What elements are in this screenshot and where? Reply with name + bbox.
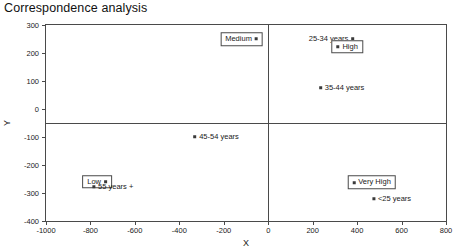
x-tick-label: 600: [395, 226, 408, 235]
point-marker-icon: [372, 197, 375, 200]
data-point: <25 years: [372, 195, 411, 203]
x-tick-mark: [268, 221, 269, 225]
x-tick-mark: [135, 221, 136, 225]
x-tick-mark: [224, 221, 225, 225]
x-tick-mark: [357, 221, 358, 225]
y-tick-mark: [42, 137, 46, 138]
plot-area: -1000-800-600-400-2000200400600800300200…: [45, 24, 447, 222]
x-tick-mark: [90, 221, 91, 225]
y-tick-label: -400: [24, 217, 39, 226]
x-tick-label: -400: [172, 226, 187, 235]
x-tick-label: -800: [83, 226, 98, 235]
y-tick-mark: [42, 193, 46, 194]
chart-title: Correspondence analysis: [4, 1, 147, 15]
data-point-label: 45-54 years: [199, 133, 239, 141]
x-tick-label: 0: [266, 226, 270, 235]
y-tick-label: 0: [35, 105, 39, 114]
y-tick-label: 100: [26, 77, 39, 86]
x-axis-title: X: [243, 238, 249, 248]
x-tick-mark: [179, 221, 180, 225]
y-tick-mark: [42, 165, 46, 166]
data-point-label: 55 years +: [98, 183, 133, 191]
x-tick-label: -600: [127, 226, 142, 235]
data-point-label: <25 years: [378, 195, 411, 203]
y-tick-label: -100: [24, 133, 39, 142]
y-tick-label: -200: [24, 161, 39, 170]
y-tick-label: 300: [26, 21, 39, 30]
point-marker-icon: [336, 45, 339, 48]
x-tick-label: -200: [216, 226, 231, 235]
data-point-label: Very High: [358, 179, 391, 187]
data-point: Medium: [220, 32, 263, 46]
point-marker-icon: [193, 136, 196, 139]
y-tick-label: 200: [26, 49, 39, 58]
data-point: Very High: [347, 176, 396, 190]
y-tick-mark: [42, 109, 46, 110]
point-marker-icon: [92, 185, 95, 188]
y-tick-mark: [42, 53, 46, 54]
data-point: 55 years +: [92, 183, 133, 191]
x-tick-label: 200: [306, 226, 319, 235]
point-marker-icon: [352, 181, 355, 184]
data-point-label: Medium: [225, 35, 252, 43]
origin-line-horizontal: [46, 123, 446, 124]
x-tick-mark: [46, 221, 47, 225]
x-tick-label: 800: [440, 226, 453, 235]
x-tick-mark: [402, 221, 403, 225]
point-marker-icon: [255, 38, 258, 41]
y-tick-mark: [42, 221, 46, 222]
y-tick-mark: [42, 25, 46, 26]
x-tick-mark: [313, 221, 314, 225]
point-marker-icon: [319, 87, 322, 90]
correspondence-analysis-chart: Correspondence analysis -1000-800-600-40…: [0, 0, 457, 249]
data-point-label: 35-44 years: [325, 84, 365, 92]
data-point: High: [331, 40, 362, 54]
y-tick-label: -300: [24, 189, 39, 198]
y-tick-mark: [42, 81, 46, 82]
data-point: 35-44 years: [319, 84, 365, 92]
data-point: 45-54 years: [193, 133, 239, 141]
x-tick-mark: [446, 221, 447, 225]
data-point-label: High: [342, 43, 357, 51]
x-tick-label: -1000: [36, 226, 55, 235]
y-axis-title: Y: [2, 120, 12, 126]
x-tick-label: 400: [351, 226, 364, 235]
